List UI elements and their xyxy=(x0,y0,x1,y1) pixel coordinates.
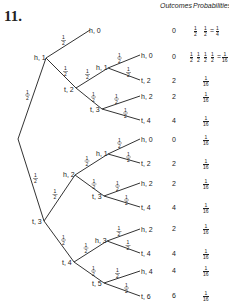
tree-node-label: t, 4 xyxy=(141,204,151,211)
tree-node-label: h, 0 xyxy=(141,52,153,59)
tree-branch xyxy=(18,139,44,221)
branch-probability: 12 xyxy=(61,34,66,46)
outcome-value: 2 xyxy=(172,180,176,187)
tree-branch xyxy=(104,283,140,296)
outcome-value: 4 xyxy=(172,250,176,257)
outcome-value: 2 xyxy=(172,160,176,167)
branch-probability: 12 xyxy=(84,242,89,254)
svg-text:2: 2 xyxy=(125,288,128,294)
branch-probability: 12 xyxy=(115,267,120,279)
tree-node-label: h, 2 xyxy=(63,171,75,178)
outcome-value: 0 xyxy=(172,136,176,143)
svg-text:2: 2 xyxy=(26,95,29,101)
tree-branch xyxy=(108,55,140,68)
svg-text:2: 2 xyxy=(62,40,65,46)
branch-probability: 12 xyxy=(33,172,38,184)
tree-branch xyxy=(74,241,107,262)
tree-node-label: t, 3 xyxy=(32,218,42,225)
branch-probability: 12 xyxy=(53,188,58,200)
tree-branch xyxy=(44,221,74,262)
tree-node-label: t, 2 xyxy=(64,86,74,93)
branch-probability: 12 xyxy=(117,137,122,149)
tree-branch xyxy=(108,68,140,80)
outcome-value: 2 xyxy=(172,93,176,100)
branch-probability: 12 xyxy=(117,52,122,64)
tree-node-label: h, 1 xyxy=(34,54,46,61)
branch-probability: 12 xyxy=(85,155,90,167)
svg-text:2: 2 xyxy=(92,97,95,103)
branch-probability: 12 xyxy=(115,180,120,192)
svg-text:2: 2 xyxy=(125,200,128,206)
branch-probability: 12 xyxy=(117,225,122,237)
svg-text:2: 2 xyxy=(127,72,130,78)
tree-branch xyxy=(18,58,46,139)
svg-text:2: 2 xyxy=(116,273,119,279)
tree-node-label: h, 2 xyxy=(141,226,153,233)
tree-branch xyxy=(104,271,140,283)
branch-probability: 12 xyxy=(63,65,68,77)
tree-node-label: h, 3 xyxy=(95,237,107,244)
tree-branch xyxy=(104,183,140,196)
tree-branch xyxy=(46,30,90,58)
tree-branch xyxy=(107,241,140,253)
tree-branch xyxy=(102,109,140,120)
svg-text:2: 2 xyxy=(116,186,119,192)
tree-node-label: h, 4 xyxy=(141,268,153,275)
branch-probability: 12 xyxy=(85,68,90,80)
branch-probability: 12 xyxy=(91,91,96,103)
tree-branch xyxy=(76,68,108,88)
tree-node-label: t, 3 xyxy=(92,193,102,200)
svg-text:2: 2 xyxy=(85,248,88,254)
tree-branch xyxy=(46,58,76,88)
tree-node-label: t, 3 xyxy=(90,106,100,113)
outcome-value: 2 xyxy=(172,77,176,84)
tree-branch xyxy=(44,175,75,221)
outcome-value: 2 xyxy=(172,225,176,232)
svg-text:2: 2 xyxy=(34,178,37,184)
branch-probability: 12 xyxy=(61,234,66,246)
tree-branch xyxy=(107,229,140,241)
outcome-value: 0 xyxy=(172,27,176,34)
svg-text:2: 2 xyxy=(92,271,95,277)
svg-text:2: 2 xyxy=(115,99,118,105)
tree-node-label: h, 0 xyxy=(141,136,153,143)
tree-branch xyxy=(102,96,140,109)
branch-probability: 12 xyxy=(114,93,119,105)
outcome-value: 4 xyxy=(172,117,176,124)
svg-text:2: 2 xyxy=(86,161,89,167)
tree-node-label: t, 6 xyxy=(141,293,151,300)
tree-branch xyxy=(108,154,140,163)
outcome-value: 4 xyxy=(172,204,176,211)
outcome-value: 0 xyxy=(172,53,176,60)
svg-text:2: 2 xyxy=(54,194,57,200)
tree-node-label: h, 2 xyxy=(141,93,153,100)
tree-node-label: t, 4 xyxy=(141,117,151,124)
svg-text:2: 2 xyxy=(118,231,121,237)
tree-node-label: t, 2 xyxy=(141,77,151,84)
tree-node-label: h, 0 xyxy=(89,27,101,34)
svg-text:2: 2 xyxy=(127,157,130,163)
svg-text:2: 2 xyxy=(86,74,89,80)
tree-node-label: h, 1 xyxy=(96,64,108,71)
branch-probability: 12 xyxy=(25,89,30,101)
tree-branch xyxy=(75,154,108,175)
svg-text:2: 2 xyxy=(118,143,121,149)
probability-tree: 1212121212121212121212121212121212121212… xyxy=(0,0,229,307)
svg-text:2: 2 xyxy=(127,245,130,251)
svg-text:2: 2 xyxy=(124,113,127,119)
tree-node-label: t, 2 xyxy=(141,160,151,167)
svg-text:2: 2 xyxy=(64,71,67,77)
tree-node-label: t, 4 xyxy=(62,259,72,266)
outcome-value: 4 xyxy=(172,267,176,274)
tree-node-label: t, 5 xyxy=(92,280,102,287)
tree-node-label: h, 1 xyxy=(96,150,108,157)
svg-text:2: 2 xyxy=(93,184,96,190)
branch-probability: 12 xyxy=(91,265,96,277)
svg-text:2: 2 xyxy=(62,240,65,246)
tree-branch xyxy=(108,139,140,154)
tree-branch xyxy=(104,196,140,207)
branch-probability: 12 xyxy=(92,178,97,190)
tree-node-label: t, 4 xyxy=(141,250,151,257)
tree-node-label: h, 2 xyxy=(141,180,153,187)
svg-text:2: 2 xyxy=(118,58,121,64)
